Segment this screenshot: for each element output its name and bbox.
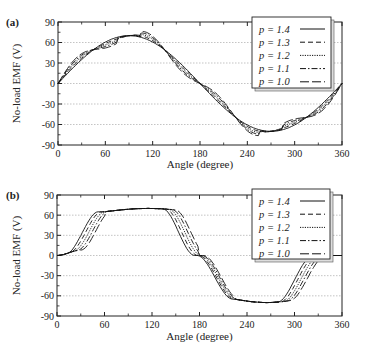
legend-label: p = 1.2	[258, 222, 290, 233]
panel-a: 9060300-30-60-90060120180240300360Angle …	[6, 16, 350, 171]
x-tick-label: 360	[335, 319, 350, 330]
legend-label: p = 1.0	[258, 248, 290, 259]
legend-label: p = 1.3	[258, 37, 290, 48]
y-tick-label: 30	[44, 230, 54, 241]
y-tick-label: -90	[41, 311, 54, 322]
legend-label: p = 1.2	[258, 50, 290, 61]
y-tick-label: 60	[44, 210, 54, 221]
y-tick-label: 0	[50, 78, 55, 89]
x-tick-label: 0	[55, 319, 60, 330]
x-tick-label: 240	[240, 319, 255, 330]
x-tick-label: 120	[145, 319, 160, 330]
legend-label: p = 1.0	[258, 76, 290, 87]
legend-label: p = 1.4	[258, 24, 290, 35]
figure: 9060300-30-60-90060120180240300360Angle …	[0, 0, 365, 361]
y-tick-label: 0	[49, 250, 54, 261]
y-tick-label: -30	[41, 270, 54, 281]
x-axis-label: Angle (degree)	[167, 158, 234, 171]
y-tick-label: -60	[41, 290, 54, 301]
x-tick-label: 120	[145, 148, 160, 159]
legend-label: p = 1.4	[258, 196, 290, 207]
x-tick-label: 360	[335, 148, 350, 159]
x-tick-label: 300	[287, 319, 302, 330]
x-tick-label: 240	[240, 148, 255, 159]
x-axis-label: Angle (degree)	[166, 330, 233, 343]
legend-label: p = 1.1	[258, 235, 290, 246]
panel-label: (a)	[6, 16, 19, 29]
y-tick-label: 60	[45, 37, 55, 48]
y-tick-label: -30	[42, 99, 55, 110]
y-axis-label: No-load EMF (V)	[10, 215, 23, 295]
legend-label: p = 1.1	[258, 63, 290, 74]
y-tick-label: 30	[45, 58, 55, 69]
panel-b: 9060300-30-60-90060120180240300360Angle …	[6, 189, 350, 343]
legend-label: p = 1.3	[258, 209, 290, 220]
y-tick-label: -60	[42, 119, 55, 130]
y-tick-label: 90	[45, 17, 55, 28]
x-tick-label: 60	[100, 319, 110, 330]
x-tick-label: 300	[287, 148, 302, 159]
y-tick-label: 90	[44, 190, 54, 201]
y-axis-label: No-load EMF (V)	[10, 43, 23, 123]
x-tick-label: 0	[56, 148, 61, 159]
panel-label: (b)	[6, 189, 20, 202]
x-tick-label: 180	[192, 319, 207, 330]
y-tick-label: -90	[42, 140, 55, 151]
x-tick-label: 60	[100, 148, 110, 159]
